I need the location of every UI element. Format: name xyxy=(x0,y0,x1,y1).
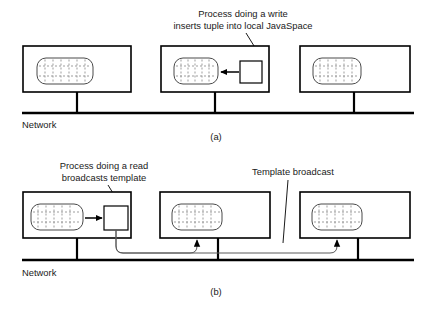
panel-a: Process doing a write inserts tuple into… xyxy=(22,8,414,142)
tuple-space xyxy=(312,204,362,230)
panel-b-annotation-line1: Process doing a read xyxy=(60,160,149,171)
tuple-space xyxy=(313,58,361,84)
tuple-space xyxy=(172,204,222,230)
panel-b-machine-left xyxy=(23,192,131,260)
panel-a-machine-middle xyxy=(161,46,269,113)
tuple-space-outline xyxy=(312,204,362,230)
network-label: Network xyxy=(22,119,57,130)
panel-b-machine-right xyxy=(300,192,410,260)
panel-b-annotation-line2: broadcasts template xyxy=(62,172,146,183)
process-box xyxy=(240,61,262,83)
panel-a-annotation-line1: Process doing a write xyxy=(198,8,288,19)
panel-b-broadcast-label: Template broadcast xyxy=(252,166,334,177)
panel-b-broadcast-leader-line xyxy=(283,180,288,243)
tuple-space xyxy=(174,58,218,84)
panel-b-caption: (b) xyxy=(210,286,221,297)
panel-b: Process doing a read broadcasts template… xyxy=(22,160,414,297)
tuple-space xyxy=(37,58,93,84)
tuple-space xyxy=(31,204,83,230)
tuple-space-outline xyxy=(172,204,222,230)
panel-a-machine-left xyxy=(23,46,131,113)
panel-a-machine-right xyxy=(300,46,410,113)
panel-a-annotation-line2: inserts tuple into local JavaSpace xyxy=(173,20,312,31)
javaspaces-figure: Process doing a write inserts tuple into… xyxy=(0,0,432,310)
process-box xyxy=(104,206,128,230)
network-label: Network xyxy=(22,267,57,278)
panel-b-machine-middle xyxy=(160,192,270,260)
figure-canvas: Process doing a write inserts tuple into… xyxy=(0,0,432,310)
tuple-space-outline xyxy=(31,204,83,230)
panel-a-caption: (a) xyxy=(210,131,221,142)
